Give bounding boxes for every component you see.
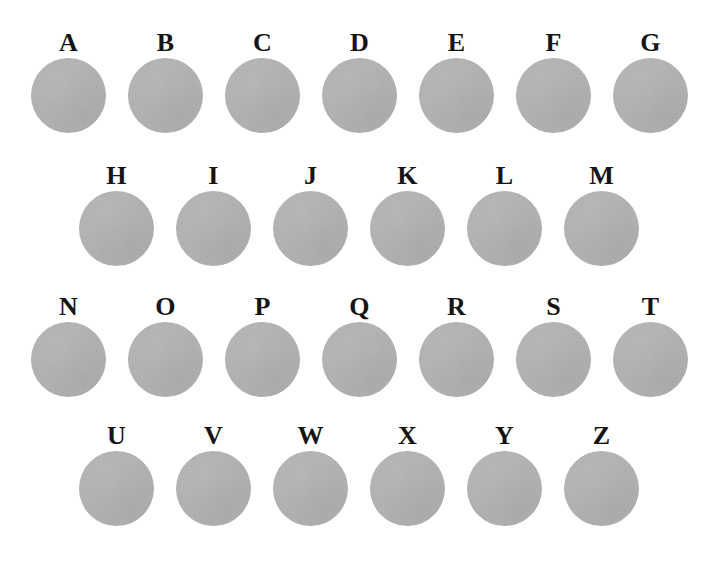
sample-disc-x xyxy=(370,451,445,526)
sample-label-o: O xyxy=(117,294,214,320)
sample-label-u: U xyxy=(68,423,165,449)
sample-disc-container-f xyxy=(505,56,602,134)
sample-disc-container-m xyxy=(553,189,650,267)
sample-disc-r xyxy=(419,322,494,397)
sample-label-m: M xyxy=(553,163,650,189)
sample-l: L xyxy=(456,163,553,267)
sample-disc-container-g xyxy=(602,56,699,134)
sample-o: O xyxy=(117,294,214,398)
sample-z: Z xyxy=(553,423,650,527)
sample-disc-p xyxy=(225,322,300,397)
sample-m: M xyxy=(553,163,650,267)
sample-s: S xyxy=(505,294,602,398)
sample-disc-m xyxy=(564,191,639,266)
sample-label-z: Z xyxy=(553,423,650,449)
sample-k: K xyxy=(359,163,456,267)
sample-j: J xyxy=(262,163,359,267)
sample-disc-w xyxy=(273,451,348,526)
sample-disc-l xyxy=(467,191,542,266)
sample-disc-i xyxy=(176,191,251,266)
sample-label-y: Y xyxy=(456,423,553,449)
sample-label-a: A xyxy=(20,30,117,56)
sample-disc-g xyxy=(613,58,688,133)
sample-c: C xyxy=(214,30,311,134)
sample-v: V xyxy=(165,423,262,527)
sample-label-i: I xyxy=(165,163,262,189)
sample-p: P xyxy=(214,294,311,398)
sample-disc-container-z xyxy=(553,449,650,527)
sample-disc-container-x xyxy=(359,449,456,527)
sample-a: A xyxy=(20,30,117,134)
sample-disc-container-k xyxy=(359,189,456,267)
sample-b: B xyxy=(117,30,214,134)
sample-n: N xyxy=(20,294,117,398)
sample-disc-u xyxy=(79,451,154,526)
sample-disc-container-j xyxy=(262,189,359,267)
sample-label-s: S xyxy=(505,294,602,320)
sample-t: T xyxy=(602,294,699,398)
sample-disc-z xyxy=(564,451,639,526)
sample-disc-container-a xyxy=(20,56,117,134)
sample-x: X xyxy=(359,423,456,527)
sample-y: Y xyxy=(456,423,553,527)
sample-disc-d xyxy=(322,58,397,133)
sample-label-p: P xyxy=(214,294,311,320)
sample-disc-container-r xyxy=(408,320,505,398)
sample-disc-container-h xyxy=(68,189,165,267)
sample-disc-o xyxy=(128,322,203,397)
sample-disc-container-l xyxy=(456,189,553,267)
sample-disc-container-t xyxy=(602,320,699,398)
sample-u: U xyxy=(68,423,165,527)
sample-label-j: J xyxy=(262,163,359,189)
sample-disc-c xyxy=(225,58,300,133)
sample-disc-s xyxy=(516,322,591,397)
sample-label-q: Q xyxy=(311,294,408,320)
sample-label-x: X xyxy=(359,423,456,449)
sample-disc-n xyxy=(31,322,106,397)
sample-f: F xyxy=(505,30,602,134)
sample-disc-e xyxy=(419,58,494,133)
sample-disc-j xyxy=(273,191,348,266)
sample-label-k: K xyxy=(359,163,456,189)
sample-label-d: D xyxy=(311,30,408,56)
sample-label-h: H xyxy=(68,163,165,189)
sample-label-g: G xyxy=(602,30,699,56)
sample-label-l: L xyxy=(456,163,553,189)
sample-r: R xyxy=(408,294,505,398)
sample-label-f: F xyxy=(505,30,602,56)
sample-disc-container-v xyxy=(165,449,262,527)
sample-e: E xyxy=(408,30,505,134)
sample-disc-k xyxy=(370,191,445,266)
sample-label-r: R xyxy=(408,294,505,320)
sample-disc-f xyxy=(516,58,591,133)
sample-disc-container-s xyxy=(505,320,602,398)
sample-label-t: T xyxy=(602,294,699,320)
sample-q: Q xyxy=(311,294,408,398)
sample-disc-v xyxy=(176,451,251,526)
sample-disc-y xyxy=(467,451,542,526)
sample-disc-container-n xyxy=(20,320,117,398)
sample-disc-container-w xyxy=(262,449,359,527)
sample-g: G xyxy=(602,30,699,134)
sample-label-e: E xyxy=(408,30,505,56)
sample-label-v: V xyxy=(165,423,262,449)
sample-disc-a xyxy=(31,58,106,133)
sample-disc-q xyxy=(322,322,397,397)
sample-disc-container-i xyxy=(165,189,262,267)
sample-d: D xyxy=(311,30,408,134)
sample-label-w: W xyxy=(262,423,359,449)
sample-disc-container-y xyxy=(456,449,553,527)
sample-disc-container-o xyxy=(117,320,214,398)
sample-disc-container-e xyxy=(408,56,505,134)
sample-label-n: N xyxy=(20,294,117,320)
sample-disc-t xyxy=(613,322,688,397)
sample-disc-h xyxy=(79,191,154,266)
sample-i: I xyxy=(165,163,262,267)
sample-disc-container-d xyxy=(311,56,408,134)
sample-label-c: C xyxy=(214,30,311,56)
circle-array-figure: ABCDEFGHIJKLMNOPQRSTUVWXYZ xyxy=(0,0,713,569)
sample-disc-container-p xyxy=(214,320,311,398)
sample-h: H xyxy=(68,163,165,267)
sample-disc-container-u xyxy=(68,449,165,527)
sample-disc-b xyxy=(128,58,203,133)
